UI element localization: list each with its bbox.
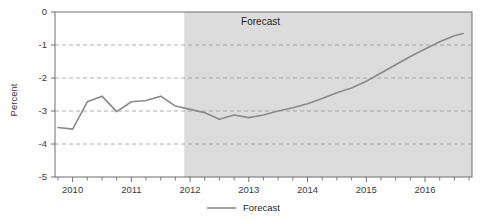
x-axis-major-ticks [73,177,425,182]
x-tick-label: 2010 [62,184,83,195]
x-tick-label: 2012 [180,184,201,195]
y-tick-label: -2 [39,72,47,83]
y-axis-tick-labels: 0-1-2-3-4-5 [39,6,47,182]
x-tick-label: 2011 [121,184,141,195]
line-chart: 0-1-2-3-4-5 2010201120122013201420152016… [0,0,490,222]
y-tick-label: -1 [39,39,47,50]
y-tick-label: -4 [39,138,47,149]
x-tick-label: 2013 [238,184,259,195]
x-axis-tick-labels: 2010201120122013201420152016 [62,184,436,195]
y-tick-label: -3 [39,105,47,116]
x-tick-label: 2014 [297,184,318,195]
x-tick-label: 2016 [414,184,435,195]
forecast-shaded-region [184,12,472,177]
y-axis-ticks [51,12,55,177]
chart-figure: 0-1-2-3-4-5 2010201120122013201420152016… [0,0,490,222]
chart-legend: Forecast [207,202,280,213]
y-tick-label: -5 [39,171,47,182]
y-tick-label: 0 [42,6,47,17]
forecast-region-label: Forecast [241,16,280,27]
legend-label-forecast: Forecast [243,202,280,213]
y-axis-title: Percent [8,83,19,116]
x-tick-label: 2015 [356,184,377,195]
x-axis-minor-ticks [58,177,469,181]
